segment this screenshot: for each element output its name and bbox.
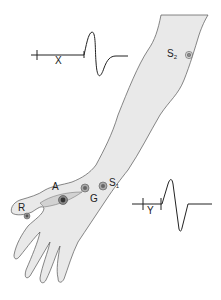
electrode-r xyxy=(24,213,30,219)
electrode-s2 xyxy=(185,51,192,58)
label-s2-sub: 2 xyxy=(174,54,177,60)
label-g: G xyxy=(90,194,98,204)
electrode-s1 xyxy=(99,182,107,190)
label-s1-sub: 1 xyxy=(116,183,119,189)
trace-proximal xyxy=(31,32,128,76)
trace-distal xyxy=(132,180,212,232)
label-s2: S2 xyxy=(167,49,177,60)
label-x: X xyxy=(55,56,62,66)
electrode-g xyxy=(81,184,89,192)
label-y: Y xyxy=(147,206,154,216)
label-r: R xyxy=(18,203,25,213)
electrode-a xyxy=(59,196,68,205)
label-s1-main: S xyxy=(109,177,116,188)
label-s1: S1 xyxy=(109,178,119,189)
arm-diagram xyxy=(0,0,221,300)
label-s2-main: S xyxy=(167,48,174,59)
label-a: A xyxy=(52,182,59,192)
